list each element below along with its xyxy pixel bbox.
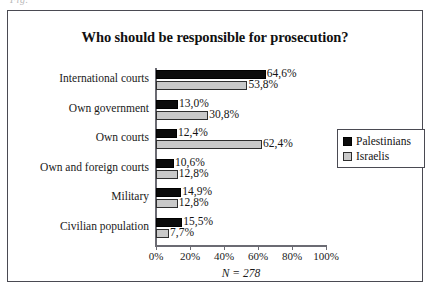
bar-value-label: 62,4% bbox=[263, 137, 293, 149]
bar-value-label: 13,0% bbox=[179, 97, 209, 109]
bar-palestinians[interactable]: 10,6% bbox=[156, 159, 174, 168]
bar-israelis[interactable]: 30,8% bbox=[156, 111, 208, 120]
plot-area: International courts64,6%53,8%Own govern… bbox=[156, 68, 326, 245]
bar-group: International courts64,6%53,8% bbox=[156, 68, 326, 98]
bar-value-label: 12,8% bbox=[179, 167, 209, 179]
bar-group: Civilian population15,5%7,7% bbox=[156, 216, 326, 246]
figure-page: Fig. Who should be responsible for prose… bbox=[0, 0, 434, 297]
legend-item-palestinians[interactable]: Palestinians bbox=[343, 135, 419, 147]
category-label: Military bbox=[111, 190, 149, 202]
bar-palestinians[interactable]: 13,0% bbox=[156, 100, 178, 109]
category-label: Own and foreign courts bbox=[40, 161, 149, 173]
bar-value-label: 30,8% bbox=[209, 108, 239, 120]
category-label: Own courts bbox=[96, 131, 149, 143]
bar-israelis[interactable]: 62,4% bbox=[156, 140, 262, 149]
x-axis-tick-label: 100% bbox=[313, 250, 339, 262]
bar-israelis[interactable]: 53,8% bbox=[156, 81, 247, 90]
bar-group: Own courts12,4%62,4% bbox=[156, 127, 326, 157]
figure-frame: Who should be responsible for prosecutio… bbox=[7, 10, 423, 282]
x-axis-line bbox=[155, 245, 326, 247]
legend-item-israelis[interactable]: Israelis bbox=[343, 150, 419, 162]
bar-value-label: 12,8% bbox=[179, 196, 209, 208]
chart-title: Who should be responsible for prosecutio… bbox=[8, 29, 422, 46]
bar-group: Own and foreign courts10,6%12,8% bbox=[156, 157, 326, 187]
sample-size-note: N = 278 bbox=[156, 267, 326, 279]
bar-israelis[interactable]: 12,8% bbox=[156, 170, 178, 179]
caption-fragment: Fig. bbox=[10, 0, 28, 5]
category-label: International courts bbox=[59, 72, 149, 84]
bar-value-label: 53,8% bbox=[248, 78, 278, 90]
chart-legend: Palestinians Israelis bbox=[337, 129, 425, 168]
category-label: Civilian population bbox=[60, 220, 149, 232]
category-label: Own government bbox=[69, 102, 149, 114]
bar-israelis[interactable]: 12,8% bbox=[156, 199, 178, 208]
bar-value-label: 12,4% bbox=[178, 126, 208, 138]
x-axis-tick-label: 0% bbox=[149, 250, 164, 262]
bar-palestinians[interactable]: 14,9% bbox=[156, 188, 181, 197]
x-axis-tick-label: 80% bbox=[282, 250, 302, 262]
legend-label-palestinians: Palestinians bbox=[356, 135, 411, 147]
x-axis-tick-label: 20% bbox=[180, 250, 200, 262]
bar-value-label: 7,7% bbox=[170, 226, 194, 238]
bar-group: Own government13,0%30,8% bbox=[156, 98, 326, 128]
legend-swatch-icon-israelis bbox=[343, 152, 352, 161]
legend-label-israelis: Israelis bbox=[356, 150, 389, 162]
bar-palestinians[interactable]: 12,4% bbox=[156, 129, 177, 138]
x-axis-tick-labels: 0%20%40%60%80%100% bbox=[156, 250, 326, 264]
x-axis-tick-label: 40% bbox=[214, 250, 234, 262]
bar-israelis[interactable]: 7,7% bbox=[156, 229, 169, 238]
legend-swatch-icon-palestinians bbox=[343, 137, 352, 146]
x-axis-tick-label: 60% bbox=[248, 250, 268, 262]
bar-group: Military14,9%12,8% bbox=[156, 186, 326, 216]
